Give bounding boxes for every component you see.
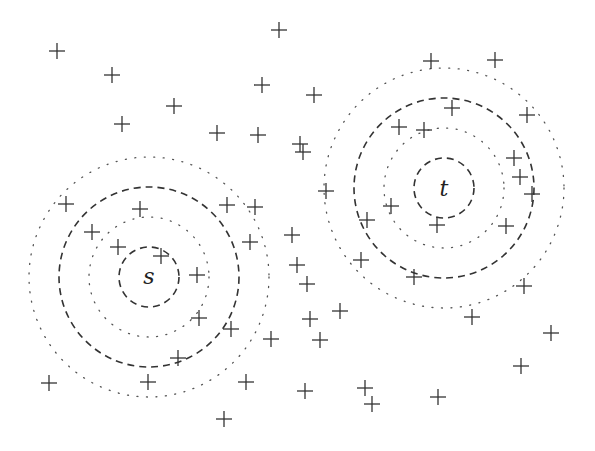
cross-point-icon: [216, 411, 232, 427]
diagram-canvas: s t: [0, 0, 595, 451]
cross-point-icon: [254, 77, 270, 93]
cross-point-icon: [353, 252, 369, 268]
cross-point-icon: [110, 239, 126, 255]
cross-point-icon: [289, 257, 305, 273]
cross-point-icon: [519, 107, 535, 123]
cross-point-icon: [302, 311, 318, 327]
cross-point-icon: [524, 186, 540, 202]
cross-point-icon: [464, 309, 480, 325]
cross-point-icon: [543, 325, 559, 341]
cross-point-icon: [104, 67, 120, 83]
cross-point-icon: [132, 201, 148, 217]
cross-point-icon: [498, 218, 514, 234]
cross-point-icon: [364, 396, 380, 412]
cross-point-icon: [406, 269, 422, 285]
cross-point-icon: [41, 375, 57, 391]
cross-point-icon: [247, 199, 263, 215]
cross-point-icon: [153, 248, 169, 264]
cross-point-icon: [209, 125, 225, 141]
cross-point-icon: [312, 332, 328, 348]
cross-point-icon: [271, 22, 287, 38]
cross-point-icon: [444, 100, 460, 116]
cross-point-icon: [512, 169, 528, 185]
cross-point-icon: [219, 197, 235, 213]
label-t: t: [440, 176, 449, 201]
points-layer: [41, 22, 559, 427]
cross-point-icon: [357, 380, 373, 396]
cross-point-icon: [306, 87, 322, 103]
cross-point-icon: [263, 331, 279, 347]
cross-point-icon: [242, 234, 258, 250]
cross-point-icon: [58, 196, 74, 212]
cross-point-icon: [429, 217, 445, 233]
cross-point-icon: [140, 374, 156, 390]
cross-point-icon: [189, 267, 205, 283]
cross-point-icon: [238, 374, 254, 390]
cross-point-icon: [49, 43, 65, 59]
cross-point-icon: [170, 350, 186, 366]
rings-layer: [29, 68, 564, 397]
cross-point-icon: [84, 224, 100, 240]
cross-point-icon: [416, 122, 432, 138]
cross-point-icon: [284, 227, 300, 243]
cross-point-icon: [297, 383, 313, 399]
cross-point-icon: [166, 98, 182, 114]
cross-point-icon: [430, 389, 446, 405]
cross-point-icon: [295, 144, 311, 160]
cross-point-icon: [506, 150, 522, 166]
labels-layer: s t: [143, 176, 448, 289]
cross-point-icon: [423, 53, 439, 69]
cross-point-icon: [250, 127, 266, 143]
cross-point-icon: [292, 136, 308, 152]
cross-point-icon: [318, 183, 334, 199]
label-s: s: [143, 264, 154, 289]
cross-point-icon: [299, 276, 315, 292]
cross-point-icon: [513, 358, 529, 374]
cross-point-icon: [391, 119, 407, 135]
cross-point-icon: [383, 198, 399, 214]
cross-point-icon: [332, 303, 348, 319]
cross-point-icon: [114, 116, 130, 132]
cross-point-icon: [516, 278, 532, 294]
cross-point-icon: [487, 52, 503, 68]
cross-point-icon: [191, 310, 207, 326]
